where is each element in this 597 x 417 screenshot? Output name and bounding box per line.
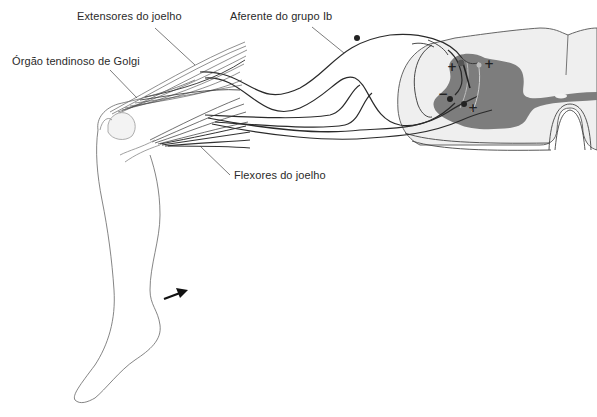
label-flexors: Flexores do joelho	[234, 169, 326, 181]
leg-outline	[74, 80, 195, 403]
interneuron-excitatory	[458, 60, 464, 66]
sign-plus-motor: +	[484, 58, 494, 70]
sign-plus-flexor: +	[468, 102, 478, 114]
sign-plus-interneuron: +	[447, 61, 457, 73]
spinal-cord	[398, 28, 597, 150]
label-golgi-tendon-organ: Órgão tendinoso de Golgi	[12, 55, 140, 67]
motor-neuron	[461, 101, 467, 107]
afferent-cell-body	[354, 35, 360, 41]
label-ib-afferent: Aferente do grupo Ib	[230, 10, 332, 22]
movement-direction-arrow	[164, 288, 188, 299]
sign-minus-inhibitory: −	[438, 88, 448, 100]
label-extensors: Extensores do joelho	[77, 10, 182, 22]
